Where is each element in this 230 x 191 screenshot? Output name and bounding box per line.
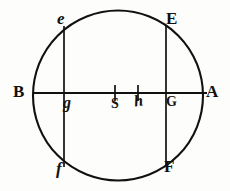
geometric-figure: e E B A g S h G f F [0, 0, 230, 191]
point-label-g: g [63, 95, 71, 111]
point-label-A: A [206, 83, 218, 100]
point-label-E: E [166, 10, 177, 27]
point-label-F: F [164, 158, 174, 175]
point-label-B: B [13, 83, 24, 100]
point-label-e: e [57, 10, 65, 27]
point-label-h: h [133, 92, 144, 109]
point-label-S: S [111, 97, 119, 111]
point-label-G: G [166, 95, 177, 109]
point-label-f: f [56, 160, 62, 177]
